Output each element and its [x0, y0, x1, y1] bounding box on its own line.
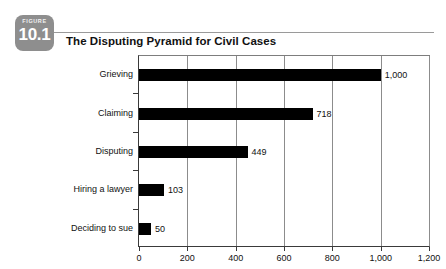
plot-area: 1,00071844910350 [138, 55, 430, 247]
y-axis-label-deciding-to-sue: Deciding to sue [71, 223, 133, 233]
bar-claiming [139, 108, 313, 120]
bar-value-label: 718 [317, 109, 332, 119]
x-axis-tick [429, 247, 430, 251]
bar-disputing [139, 146, 248, 158]
x-axis-tick [187, 247, 188, 251]
y-axis-label-hiring-a-lawyer: Hiring a lawyer [73, 184, 133, 194]
x-axis-label: 600 [276, 253, 291, 263]
bar-value-label: 1,000 [385, 70, 408, 80]
bar-row: 1,000 [139, 56, 429, 94]
x-axis-tick [332, 247, 333, 251]
x-axis-tick [236, 247, 237, 251]
bar-row: 50 [139, 210, 429, 248]
bar-deciding-to-sue [139, 223, 151, 235]
y-axis-label-grieving: Grieving [99, 69, 133, 79]
bar-hiring-a-lawyer [139, 184, 164, 196]
bar-value-label: 50 [155, 224, 165, 234]
gridline [429, 56, 430, 246]
y-axis-category-labels: GrievingClaimingDisputingHiring a lawyer… [0, 55, 133, 247]
x-axis-tick [284, 247, 285, 251]
y-axis-label-claiming: Claiming [98, 108, 133, 118]
figure-badge-number: 10.1 [15, 25, 54, 45]
bar-row: 718 [139, 94, 429, 132]
bar-row: 449 [139, 133, 429, 171]
x-axis-label: 1,200 [418, 253, 441, 263]
y-axis-label-disputing: Disputing [95, 146, 133, 156]
bar-row: 103 [139, 171, 429, 209]
x-axis-label: 400 [228, 253, 243, 263]
x-axis-tick [139, 247, 140, 251]
header-divider [54, 32, 434, 33]
chart-title: The Disputing Pyramid for Civil Cases [66, 35, 276, 47]
bar-grieving [139, 69, 381, 81]
bar-value-label: 103 [168, 185, 183, 195]
x-axis-label: 200 [180, 253, 195, 263]
x-axis-label: 0 [136, 253, 141, 263]
x-axis-tick [381, 247, 382, 251]
x-axis-label: 1,000 [369, 253, 392, 263]
figure-badge: FIGURE 10.1 [15, 15, 54, 51]
x-axis: 02004006008001,0001,200 [138, 247, 430, 269]
x-axis-label: 800 [325, 253, 340, 263]
figure-badge-kicker: FIGURE [15, 18, 54, 25]
bar-value-label: 449 [252, 147, 267, 157]
